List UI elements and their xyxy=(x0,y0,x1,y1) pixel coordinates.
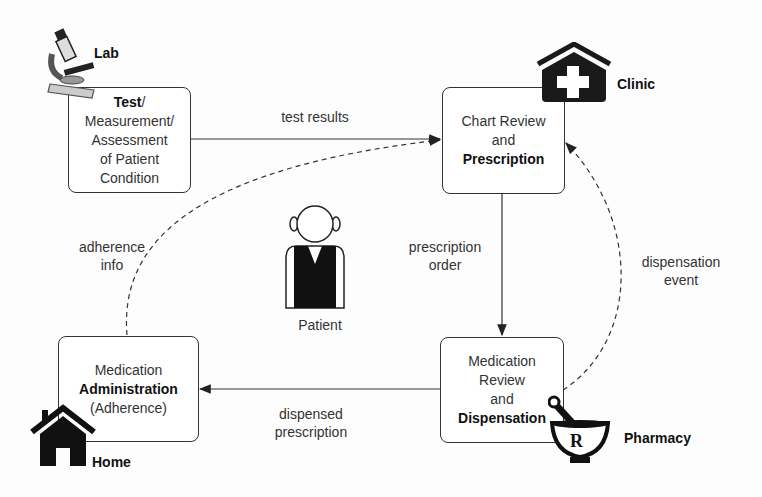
node-medication-review-dispensation: Medication Review and Dispensation xyxy=(440,337,564,443)
patient-label: Patient xyxy=(290,316,350,334)
node-chart-review-prescription: Chart Review and Prescription xyxy=(442,87,565,194)
patient-icon xyxy=(282,204,348,310)
edge-label-dispensed-prescription: dispensed prescription xyxy=(256,405,366,441)
svg-text:R: R xyxy=(570,431,584,451)
home-label: Home xyxy=(92,454,131,470)
home-icon xyxy=(30,404,96,466)
node-test-measurement: Test/ Measurement/ Assessment of Patient… xyxy=(68,87,191,193)
edge-label-dispensation-event: dispensation event xyxy=(626,253,736,289)
edge-dispensation-event xyxy=(563,143,621,390)
lab-label: Lab xyxy=(94,45,119,61)
edge-label-adherence-info: adherence info xyxy=(62,238,162,274)
mortar-pestle-icon: R xyxy=(548,395,614,465)
edge-label-prescription-order: prescription order xyxy=(390,238,500,274)
clinic-label: Clinic xyxy=(617,76,655,92)
clinic-icon xyxy=(536,42,612,102)
pharmacy-label: Pharmacy xyxy=(624,430,691,446)
microscope-icon xyxy=(44,24,104,102)
edge-label-test-results: test results xyxy=(260,108,370,126)
